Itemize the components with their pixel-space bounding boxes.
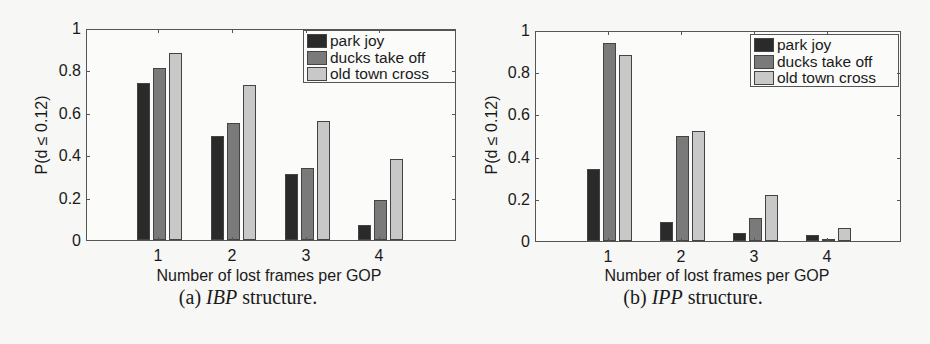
x-tick-label: 4: [823, 248, 832, 266]
y-tick-label: 0: [490, 233, 530, 251]
y-tick-label: 1: [490, 22, 530, 40]
x-tick-mark: [754, 238, 755, 242]
legend-item: ducks take off: [754, 54, 894, 71]
y-tick-label: 0.6: [490, 106, 530, 124]
caption-suffix: structure.: [688, 286, 763, 308]
y-tick-label: 0.2: [490, 191, 530, 209]
y-tick-mark: [535, 200, 539, 201]
legend-swatch: [754, 38, 774, 52]
bar-park-joy-1: [587, 169, 600, 241]
x-tick-mark: [827, 31, 828, 35]
legend-swatch: [754, 71, 774, 85]
legend-label: park joy: [777, 37, 831, 53]
y-tick-label: 0.8: [490, 64, 530, 82]
x-tick-label: 2: [677, 248, 686, 266]
y-tick-mark: [897, 73, 901, 74]
legend-label: ducks take off: [777, 54, 872, 70]
bar-ducks-take-off-4: [822, 239, 835, 241]
x-axis-label: Number of lost frames per GOP: [605, 267, 830, 285]
x-tick-label: 3: [750, 248, 759, 266]
bar-old-town-cross-3: [765, 195, 778, 241]
x-tick-mark: [681, 31, 682, 35]
y-tick-mark: [535, 115, 539, 116]
x-tick-mark: [827, 238, 828, 242]
x-tick-mark: [608, 31, 609, 35]
y-tick-mark: [535, 73, 539, 74]
x-tick-mark: [681, 238, 682, 242]
figure-caption: (b) IPP structure.: [623, 286, 762, 309]
y-tick-mark: [535, 158, 539, 159]
caption-prefix: (b): [623, 286, 646, 308]
bar-ducks-take-off-1: [603, 43, 616, 241]
x-tick-mark: [608, 238, 609, 242]
y-tick-mark: [897, 115, 901, 116]
legend-label: old town cross: [777, 70, 876, 86]
bar-park-joy-2: [660, 222, 673, 241]
bar-park-joy-3: [733, 233, 746, 241]
y-tick-mark: [897, 200, 901, 201]
bar-ducks-take-off-2: [676, 136, 689, 242]
bar-old-town-cross-1: [619, 55, 632, 241]
legend-item: old town cross: [754, 70, 894, 87]
caption-structure-name: IPP: [652, 286, 683, 308]
bar-park-joy-4: [806, 235, 819, 241]
bar-old-town-cross-4: [838, 228, 851, 241]
legend-swatch: [754, 55, 774, 69]
legend-item: park joy: [754, 37, 894, 54]
y-tick-mark: [897, 158, 901, 159]
x-tick-label: 1: [604, 248, 613, 266]
y-tick-label: 0.4: [490, 149, 530, 167]
bar-old-town-cross-2: [692, 131, 705, 241]
chart-panel-ipp: P(d ≤ 0.12) park joyducks take offold to…: [0, 0, 930, 344]
x-tick-mark: [754, 31, 755, 35]
bar-ducks-take-off-3: [749, 218, 762, 241]
legend: park joyducks take offold town cross: [750, 34, 899, 87]
